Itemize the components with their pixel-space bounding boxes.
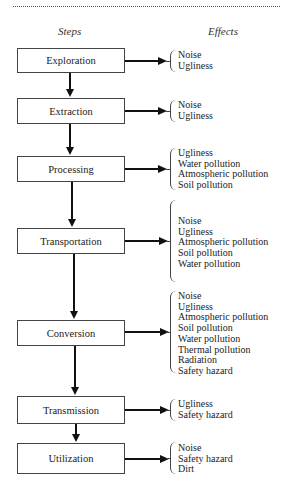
step-box-utilization: Utilization: [17, 443, 125, 474]
flow-arrow-3-line: [71, 182, 73, 220]
brace-icon: [170, 399, 176, 421]
flow-arrow-5-line: [74, 346, 76, 388]
brace-icon: [170, 291, 176, 373]
effects-list-transportation: Noise Ugliness Atmospheric pollution Soi…: [178, 216, 268, 270]
effects-header: Effects: [208, 25, 238, 37]
flow-arrow-4-line: [73, 254, 75, 312]
step-box-conversion: Conversion: [17, 320, 125, 346]
effect-arrow-exploration: [125, 60, 159, 62]
brace-icon: [170, 148, 176, 190]
effect-item: Ugliness: [178, 111, 213, 122]
effects-list-extraction: Noise Ugliness: [178, 100, 213, 121]
effects-list-transmission: Ugliness Safety hazard: [178, 399, 233, 420]
effect-item: Dirt: [178, 464, 233, 475]
brace-icon: [170, 200, 176, 282]
effect-arrow-transportation: [125, 240, 160, 242]
flow-arrow-2-line: [69, 124, 71, 148]
effect-arrow-processing: [125, 168, 159, 170]
effect-item: Ugliness: [178, 61, 213, 72]
effects-list-exploration: Noise Ugliness: [178, 50, 213, 71]
effect-item: Water pollution: [178, 259, 268, 270]
flow-arrow-1-line: [69, 73, 71, 90]
step-box-processing: Processing: [17, 156, 125, 182]
steps-header: Steps: [58, 25, 81, 37]
arrow-right-icon: [160, 455, 169, 463]
effect-item: Safety hazard: [178, 410, 233, 421]
effect-arrow-conversion: [125, 331, 161, 333]
effects-list-processing: Ugliness Water pollution Atmospheric pol…: [178, 148, 268, 191]
arrow-down-icon: [72, 434, 80, 442]
arrow-down-icon: [66, 89, 74, 97]
arrow-down-icon: [68, 219, 76, 227]
top-dotted-rule: [13, 6, 280, 7]
step-box-extraction: Extraction: [17, 98, 125, 124]
effect-item: Soil pollution: [178, 180, 268, 191]
arrow-down-icon: [70, 311, 78, 319]
brace-icon: [170, 50, 176, 72]
brace-icon: [170, 100, 176, 122]
step-box-transmission: Transmission: [17, 396, 125, 424]
arrow-down-icon: [66, 147, 74, 155]
arrow-down-icon: [71, 387, 79, 395]
effect-item: Water pollution: [178, 334, 268, 345]
effect-arrow-utilization: [125, 458, 161, 460]
brace-icon: [170, 442, 176, 474]
effect-arrow-extraction: [125, 110, 159, 112]
effect-item: Safety hazard: [178, 366, 268, 377]
effects-list-utilization: Noise Safety hazard Dirt: [178, 443, 233, 475]
step-box-transportation: Transportation: [17, 228, 125, 254]
step-box-exploration: Exploration: [17, 48, 125, 73]
effects-list-conversion: Noise Ugliness Atmospheric pollution Soi…: [178, 291, 268, 377]
effect-arrow-transmission: [125, 409, 161, 411]
